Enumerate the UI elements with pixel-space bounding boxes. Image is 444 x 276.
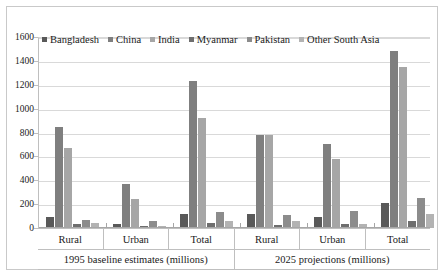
category-label: Urban — [104, 229, 170, 249]
bar-group — [240, 38, 307, 228]
bar[interactable] — [426, 214, 434, 228]
bar[interactable] — [265, 135, 273, 228]
legend-swatch-icon — [42, 37, 47, 42]
bar[interactable] — [189, 81, 197, 228]
legend-label: Other South Asia — [307, 34, 379, 45]
legend-swatch-icon — [150, 37, 155, 42]
category-label: Rural — [38, 229, 104, 249]
bar[interactable] — [180, 214, 188, 228]
y-axis: 16001400120010008006004002000 — [0, 37, 34, 228]
category-label: Rural — [235, 229, 301, 249]
bar-group — [106, 38, 173, 228]
bar-group — [173, 38, 240, 228]
bar[interactable] — [131, 199, 139, 228]
category-label: Total — [366, 229, 431, 249]
bar-group — [374, 38, 441, 228]
bar-group — [39, 38, 106, 228]
legend-swatch-icon — [189, 37, 194, 42]
bar[interactable] — [350, 211, 358, 228]
y-axis-label: 400 — [0, 175, 34, 185]
legend-label: India — [158, 34, 180, 45]
bar[interactable] — [390, 51, 398, 228]
y-axis-label: 0 — [0, 223, 34, 233]
legend-swatch-icon — [108, 37, 113, 42]
bar[interactable] — [55, 127, 63, 228]
chart-legend: BangladeshChinaIndiaMyanmarPakistanOther… — [42, 32, 379, 46]
bar[interactable] — [417, 198, 425, 228]
bar[interactable] — [323, 144, 331, 228]
legend-label: Pakistan — [255, 34, 291, 45]
legend-swatch-icon — [299, 37, 304, 42]
chart-container: 16001400120010008006004002000 Bangladesh… — [0, 0, 444, 276]
legend-item[interactable]: Pakistan — [247, 34, 291, 45]
bar-group — [307, 38, 374, 228]
y-axis-label: 1400 — [0, 56, 34, 66]
group-label: 1995 baseline estimates (millions) — [38, 250, 235, 269]
y-axis-label: 600 — [0, 151, 34, 161]
bar[interactable] — [256, 135, 264, 228]
y-axis-label: 800 — [0, 128, 34, 138]
bar-groups — [39, 38, 430, 228]
group-axis-row: 1995 baseline estimates (millions)2025 p… — [38, 250, 430, 270]
category-label: Total — [169, 229, 235, 249]
legend-item[interactable]: India — [150, 34, 180, 45]
group-label: 2025 projections (millions) — [235, 250, 431, 269]
legend-swatch-icon — [247, 37, 252, 42]
legend-label: Bangladesh — [50, 34, 99, 45]
category-label: Urban — [300, 229, 366, 249]
legend-label: Myanmar — [197, 34, 238, 45]
legend-label: China — [116, 34, 141, 45]
bar[interactable] — [198, 118, 206, 228]
category-axis-row: RuralUrbanTotalRuralUrbanTotal — [38, 228, 430, 250]
bar[interactable] — [332, 159, 340, 228]
plot-area — [38, 37, 430, 228]
bar[interactable] — [216, 212, 224, 228]
y-axis-label: 1600 — [0, 32, 34, 42]
bar[interactable] — [64, 148, 72, 228]
legend-item[interactable]: Bangladesh — [42, 34, 99, 45]
bar[interactable] — [122, 184, 130, 228]
legend-item[interactable]: China — [108, 34, 141, 45]
y-axis-label: 1000 — [0, 104, 34, 114]
legend-item[interactable]: Myanmar — [189, 34, 238, 45]
bar[interactable] — [399, 67, 407, 228]
y-axis-label: 1200 — [0, 80, 34, 90]
bar[interactable] — [247, 214, 255, 228]
y-axis-label: 200 — [0, 199, 34, 209]
bar[interactable] — [381, 203, 389, 228]
legend-item[interactable]: Other South Asia — [299, 34, 379, 45]
